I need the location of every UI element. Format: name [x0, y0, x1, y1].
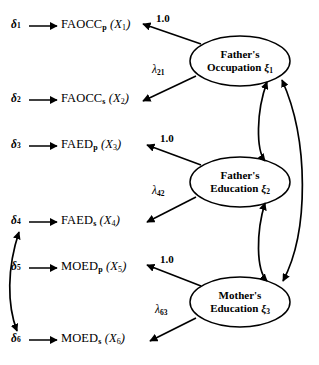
- factor-line1-xi1: Father's: [190, 48, 290, 61]
- arrow-loading-l53: [147, 265, 201, 286]
- factor-label-xi2: Father's Education ξ2: [190, 169, 290, 197]
- arrow-loading-l63: [150, 318, 196, 341]
- factor-label-xi3: Mother's Education ξ3: [190, 289, 290, 317]
- loading-label-l42: λ42: [152, 185, 164, 197]
- error-label-d2: δ2: [11, 93, 21, 105]
- loading-label-l53: 1.0: [160, 254, 174, 265]
- arrow-loading-l42: [147, 197, 196, 222]
- error-to-indicator-arrows: [29, 26, 57, 340]
- factor-line2-xi2: Education ξ2: [190, 182, 290, 197]
- factor-line1-xi2: Father's: [190, 169, 290, 182]
- factor-line1-xi3: Mother's: [190, 289, 290, 302]
- indicator-label-x4: FAEDs (X4): [61, 214, 120, 228]
- error-label-d1: δ1: [11, 19, 21, 31]
- error-label-d5: δ5: [11, 261, 21, 273]
- factor-line2-xi1: Occupation ξ1: [190, 61, 290, 76]
- loading-label-l63: λ63: [155, 304, 167, 316]
- error-correlation-arc: [10, 232, 19, 331]
- arrow-loading-l32: [147, 145, 201, 165]
- error-label-d3: δ3: [11, 139, 21, 151]
- error-label-d4: δ4: [11, 215, 21, 227]
- indicator-label-x1: FAOCCp (X1): [61, 18, 130, 32]
- indicator-label-x3: FAEDp (X3): [61, 138, 121, 152]
- loading-label-l11: 1.0: [156, 13, 170, 24]
- indicator-label-x2: FAOCCs (X2): [61, 92, 129, 106]
- loading-label-l32: 1.0: [160, 133, 174, 144]
- indicator-label-x5: MOEDp (X5): [61, 260, 126, 274]
- indicator-label-x6: MOEDs (X6): [61, 332, 125, 346]
- error-label-d6: δ6: [11, 333, 21, 345]
- loading-label-l21: λ21: [152, 64, 164, 76]
- arc-correlation-xi2-xi3: [258, 203, 267, 281]
- arc-correlation-xi1-xi2: [258, 82, 267, 161]
- factor-label-xi1: Father's Occupation ξ1: [190, 48, 290, 76]
- arrow-loading-l11: [143, 24, 201, 44]
- factor-line2-xi3: Education ξ3: [190, 302, 290, 317]
- path-diagram: δ1 δ2 δ3 δ4 δ5 δ6 FAOCCp (X1) FAOCCs (X2…: [0, 0, 319, 365]
- arc-correlation-d4-d6: [10, 232, 19, 331]
- arrow-loading-l21: [143, 76, 196, 101]
